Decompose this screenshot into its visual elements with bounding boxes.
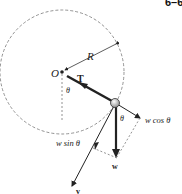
- label-theta-ball: θ: [120, 114, 124, 123]
- label-R: R: [86, 50, 94, 62]
- tension-arrow: [67, 76, 112, 101]
- label-w: w: [112, 162, 118, 171]
- pendulum-force-diagram: 6–6 O R T θ θ w cos θ w sin θ w v: [0, 0, 182, 194]
- component-dash-1: [117, 118, 140, 157]
- pendulum-ball: [111, 99, 120, 108]
- label-w-cos: w cos θ: [145, 115, 170, 125]
- label-w-sin: w sin θ: [56, 138, 80, 148]
- center-point: [60, 70, 64, 74]
- label-v: v: [76, 187, 80, 194]
- label-theta-top: θ: [66, 86, 70, 95]
- figure-number: 6–6: [165, 0, 182, 8]
- label-T: T: [77, 73, 84, 84]
- label-O: O: [51, 67, 59, 79]
